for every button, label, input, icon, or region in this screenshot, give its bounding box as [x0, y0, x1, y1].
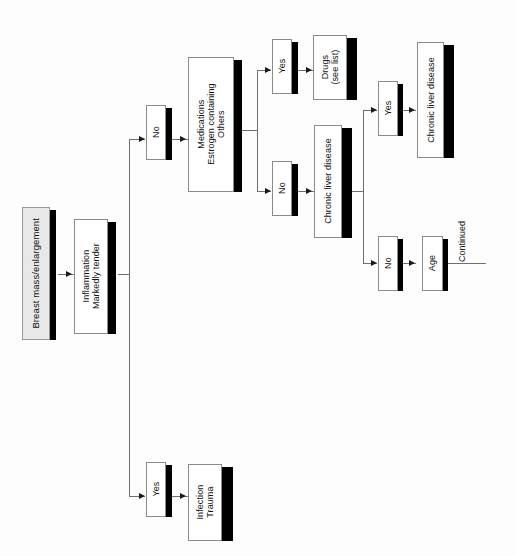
arrowhead-no-to-cld-question — [306, 188, 312, 194]
arrowhead-cld-split-to-yes — [371, 107, 377, 113]
node-infection-trauma-line1: Infection — [195, 485, 205, 520]
node-drugs-label-group: Drugs (see list) — [320, 50, 340, 85]
arrowhead-meds-split-to-no — [265, 188, 271, 194]
arrowhead-yes-to-drugs — [306, 67, 312, 73]
node-branch-no-1[interactable]: No — [146, 105, 166, 160]
node-cld-no[interactable]: No — [378, 236, 398, 291]
node-branch-no-1-label: No — [151, 127, 161, 139]
split-trunk-medications — [257, 70, 258, 191]
annotation-continued: Continued — [457, 221, 467, 262]
node-chronic-liver-disease-question-label: Chronic liver disease — [323, 139, 333, 225]
node-drugs-line1: Drugs — [320, 55, 330, 80]
node-breast-mass-enlargement[interactable]: Breast mass/enlargement — [22, 207, 50, 340]
node-infection-trauma[interactable]: Infection Trauma — [188, 464, 222, 541]
arrowhead-cld-split-to-no — [371, 260, 377, 266]
node-branch-yes-1[interactable]: Yes — [146, 462, 166, 517]
node-inflammation-line1: Inflammation — [81, 250, 91, 303]
node-medications-line2: Estrogen containing — [206, 84, 216, 165]
node-inflammation-markedly-tender[interactable]: Inflammation Markedly tender — [74, 219, 108, 334]
node-medications-label-group: Medications Estrogen containing Others — [196, 84, 226, 165]
arrowhead-no1-to-medications — [180, 136, 186, 142]
node-chronic-liver-disease-question[interactable]: Chronic liver disease — [314, 125, 342, 238]
arrowhead-yes1-to-infection — [180, 493, 186, 499]
arrowhead-split-to-yes1 — [139, 493, 145, 499]
arrowhead-no-to-age — [409, 260, 415, 266]
node-chronic-liver-disease-diagnosis[interactable]: Chronic liver disease — [417, 42, 444, 158]
node-medications-line3: Others — [216, 111, 226, 139]
node-infection-trauma-line2: Trauma — [205, 487, 215, 518]
connector-cld-to-split — [350, 191, 364, 192]
node-drugs-line2: (see list) — [330, 50, 340, 85]
connector-medications-to-split — [240, 130, 258, 131]
node-infection-trauma-label-group: Infection Trauma — [195, 485, 215, 520]
split-trunk-inflammation — [129, 139, 130, 496]
flowchart-canvas: Breast mass/enlargement Inflammation Mar… — [0, 0, 516, 556]
node-cld-yes[interactable]: Yes — [378, 81, 398, 136]
arrowhead-start-to-inflammation — [66, 271, 72, 277]
arrowhead-yes-to-cld-dx — [409, 107, 415, 113]
node-inflammation-line2: Markedly tender — [91, 243, 101, 309]
node-branch-yes-1-label: Yes — [151, 482, 161, 497]
node-meds-yes[interactable]: Yes — [272, 39, 292, 94]
node-cld-yes-label: Yes — [383, 101, 393, 116]
node-medications-line1: Medications — [196, 100, 206, 149]
node-meds-no[interactable]: No — [272, 161, 292, 216]
connector-age-to-continued — [444, 263, 486, 264]
node-drugs[interactable]: Drugs (see list) — [313, 35, 347, 100]
node-meds-no-label: No — [277, 183, 287, 195]
split-trunk-cld — [363, 110, 364, 263]
node-age[interactable]: Age — [422, 236, 443, 291]
node-cld-no-label: No — [383, 258, 393, 270]
arrowhead-meds-split-to-yes — [265, 67, 271, 73]
node-breast-mass-enlargement-label: Breast mass/enlargement — [31, 218, 42, 329]
node-chronic-liver-disease-diagnosis-label: Chronic liver disease — [425, 57, 435, 143]
node-meds-yes-label: Yes — [277, 59, 287, 74]
node-medications[interactable]: Medications Estrogen containing Others — [188, 57, 234, 192]
node-inflammation-label-group: Inflammation Markedly tender — [81, 243, 101, 309]
arrowhead-split-to-no1 — [139, 136, 145, 142]
node-age-label: Age — [427, 255, 437, 271]
